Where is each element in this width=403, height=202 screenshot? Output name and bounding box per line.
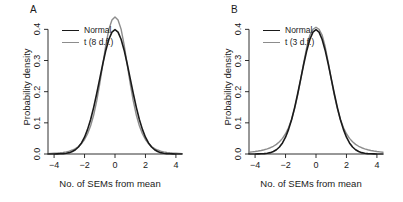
x-tick-label: 2 (137, 160, 153, 170)
legend-a: Normal t (8 d.f.) (62, 24, 113, 48)
x-tick-label: 2 (338, 160, 354, 170)
legend-swatch-t (263, 42, 280, 43)
legend-swatch-normal (62, 30, 79, 31)
legend-label-normal: Normal (285, 24, 312, 36)
x-tick-label: 0 (107, 160, 123, 170)
y-tick-label: 0.0 (232, 143, 244, 165)
legend-item-normal: Normal (263, 24, 314, 36)
y-tick-label: 0.2 (31, 81, 43, 103)
y-tick-label: 0.4 (31, 18, 43, 40)
x-axis-title-a: No. of SEMs from mean (30, 178, 190, 189)
legend-item-normal: Normal (62, 24, 113, 36)
series-line-normal (249, 30, 383, 154)
legend-swatch-t (62, 42, 79, 43)
y-tick-label: 0.1 (31, 112, 43, 134)
panel-label-b: B (231, 4, 238, 15)
x-tick-label: −4 (46, 160, 62, 170)
x-axis-title-b: No. of SEMs from mean (231, 178, 391, 189)
x-tick-label: −2 (278, 160, 294, 170)
x-tick-label: −4 (247, 160, 263, 170)
y-axis-title-text: Probability density (222, 27, 233, 147)
y-tick-label: 0.4 (232, 18, 244, 40)
panel-a: A Probability density Normal t (8 d.f.) … (0, 0, 201, 202)
figure: A Probability density Normal t (8 d.f.) … (0, 0, 403, 202)
y-tick-label: 0.0 (31, 143, 43, 165)
legend-swatch-normal (263, 30, 280, 31)
legend-item-t: t (8 d.f.) (62, 36, 113, 48)
y-axis-title-a: Probability density (10, 20, 24, 154)
x-tick-label: 4 (369, 160, 385, 170)
series-line-normal (48, 30, 182, 154)
legend-label-normal: Normal (84, 24, 111, 36)
y-tick-label: 0.2 (232, 81, 244, 103)
y-tick-label: 0.1 (232, 112, 244, 134)
legend-item-t: t (3 d.f.) (263, 36, 314, 48)
y-tick-label: 0.3 (31, 50, 43, 72)
y-tick-label: 0.3 (232, 50, 244, 72)
legend-b: Normal t (3 d.f.) (263, 24, 314, 48)
legend-label-t: t (3 d.f.) (285, 36, 314, 48)
x-tick-label: 0 (308, 160, 324, 170)
x-tick-label: 4 (168, 160, 184, 170)
panel-b: B Probability density Normal t (3 d.f.) … (201, 0, 402, 202)
legend-label-t: t (8 d.f.) (84, 36, 113, 48)
panel-label-a: A (30, 4, 37, 15)
x-tick-label: −2 (77, 160, 93, 170)
y-axis-title-text: Probability density (21, 27, 32, 147)
y-axis-title-b: Probability density (211, 20, 225, 154)
